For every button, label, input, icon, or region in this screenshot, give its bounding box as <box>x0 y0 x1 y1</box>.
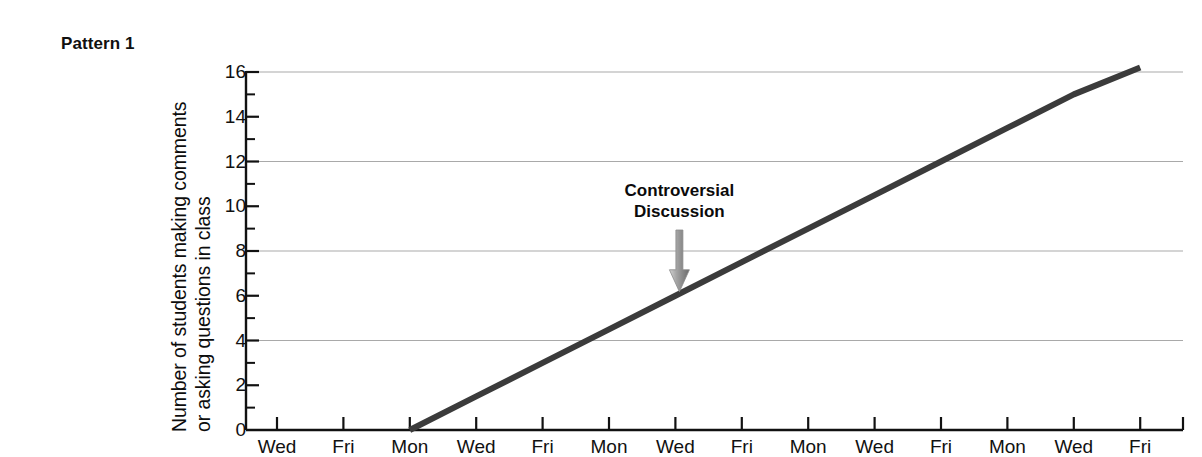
x-tick-label: Fri <box>930 436 952 457</box>
annotation-line2: Discussion <box>625 201 735 222</box>
x-tick-label: Mon <box>790 436 827 457</box>
x-tick-label: Mon <box>391 436 428 457</box>
x-tick-label: Wed <box>258 436 297 457</box>
x-tick-label: Fri <box>1129 436 1151 457</box>
x-tick-label: Mon <box>989 436 1026 457</box>
annotation-line1: Controversial <box>625 180 735 201</box>
x-tick-label: Wed <box>457 436 496 457</box>
x-tick-label: Wed <box>855 436 894 457</box>
x-tick-label: Wed <box>1054 436 1093 457</box>
x-tick-label: Fri <box>332 436 354 457</box>
annotation-label: Controversial Discussion <box>625 180 735 222</box>
x-axis-tick-labels: WedFriMonWedFriMonWedFriMonWedFriMonWedF… <box>0 0 1202 457</box>
x-tick-label: Fri <box>731 436 753 457</box>
x-tick-label: Fri <box>532 436 554 457</box>
chart-figure: Pattern 1 Number of students making comm… <box>0 0 1202 457</box>
x-tick-label: Mon <box>591 436 628 457</box>
x-tick-label: Wed <box>656 436 695 457</box>
